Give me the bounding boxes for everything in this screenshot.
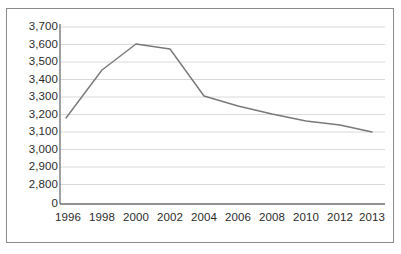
x-tick-label: 2008 [259, 212, 285, 223]
x-tick-label: 2012 [327, 212, 353, 223]
x-tick-label: 2013 [359, 212, 385, 223]
x-tick-label: 2000 [123, 212, 149, 223]
x-tick-label: 2006 [225, 212, 251, 223]
chart-figure: 3,700 3,600 3,500 3,400 3,300 3,200 3,10… [0, 0, 401, 254]
x-axis-tick-labels: 1996 1998 2000 2002 2004 2006 2008 2010 … [0, 0, 401, 254]
x-tick-label: 1998 [89, 212, 115, 223]
x-tick-label: 1996 [55, 212, 81, 223]
x-tick-label: 2010 [293, 212, 319, 223]
x-tick-label: 2004 [191, 212, 217, 223]
x-tick-label: 2002 [157, 212, 183, 223]
